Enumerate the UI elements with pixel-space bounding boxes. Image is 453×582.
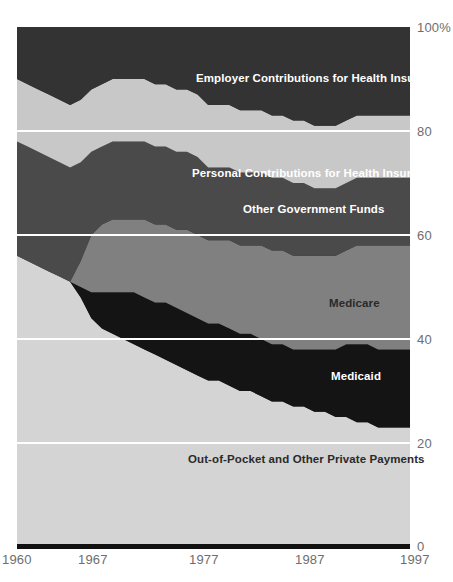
y-tick-label-40: 40: [417, 332, 432, 347]
plot-svg: [17, 27, 410, 547]
x-tick-label-1967: 1967: [78, 552, 108, 567]
x-tick-label-1997: 1997: [400, 552, 430, 567]
gridline-80: [17, 130, 410, 132]
y-tick-label-80: 80: [417, 124, 432, 139]
series-label-other-government-funds: Other Government Funds: [243, 203, 385, 215]
x-tick-label-1960: 1960: [2, 552, 32, 567]
stacked-area-chart: 100% 80 60 40 20 0 1960 1967 1977 1987 1…: [0, 0, 453, 582]
series-label-personal-contributions: Personal Contributions for Health Insura…: [192, 167, 438, 179]
gridline-20: [17, 442, 410, 444]
y-tick-label-20: 20: [417, 436, 432, 451]
gridline-40: [17, 338, 410, 340]
series-label-medicaid: Medicaid: [331, 370, 381, 382]
series-label-employer-contributions: Employer Contributions for Health Insura…: [196, 72, 446, 84]
series-label-medicare: Medicare: [329, 297, 380, 309]
y-tick-label-100: 100%: [417, 20, 451, 35]
plot-area: [17, 27, 410, 547]
x-tick-label-1977: 1977: [189, 552, 219, 567]
series-label-out-of-pocket: Out-of-Pocket and Other Private Payments: [188, 453, 425, 465]
x-tick-label-1987: 1987: [295, 552, 325, 567]
y-tick-label-60: 60: [417, 228, 432, 243]
gridline-60: [17, 234, 410, 236]
x-axis-baseline: [17, 544, 410, 549]
